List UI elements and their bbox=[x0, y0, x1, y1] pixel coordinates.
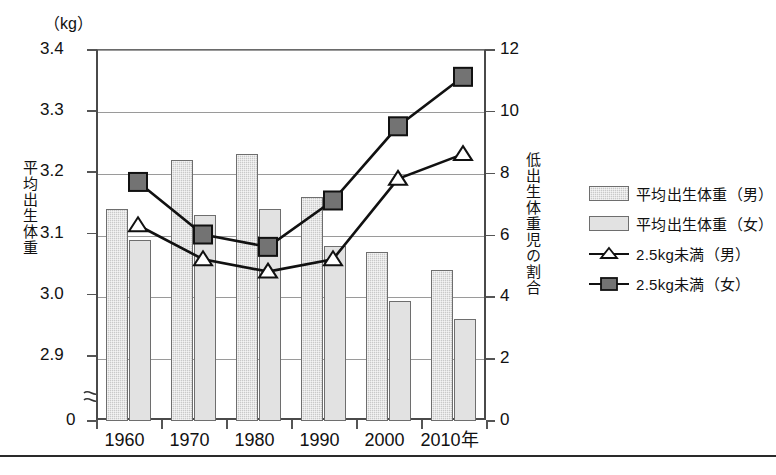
x-axis-tick-mark bbox=[486, 420, 488, 429]
legend-swatch-female-bar-icon bbox=[589, 216, 629, 231]
legend-label: 平均出生体重（女） bbox=[636, 213, 774, 234]
bar-male-avg-weight bbox=[171, 160, 193, 421]
x-axis-tick: 2010年 bbox=[421, 431, 479, 449]
legend: 平均出生体重（男）平均出生体重（女）2.5kg未満（男）2.5kg未満（女） bbox=[589, 178, 769, 298]
x-axis-tick: 1970 bbox=[170, 431, 210, 449]
left-axis-title: 平均出生体重 bbox=[22, 160, 38, 256]
bar-male-avg-weight bbox=[431, 270, 453, 421]
left-axis-tick-mark bbox=[87, 355, 96, 357]
right-axis-tick: 8 bbox=[500, 164, 509, 181]
left-axis-tick: 2.9 bbox=[40, 346, 64, 363]
x-axis-tick: 1980 bbox=[235, 431, 275, 449]
legend-item-2[interactable]: 2.5kg未満（男） bbox=[589, 238, 769, 268]
right-axis-tick-mark bbox=[486, 173, 495, 175]
bar-male-avg-weight bbox=[301, 197, 323, 421]
right-axis-tick: 0 bbox=[500, 411, 509, 428]
legend-label: 平均出生体重（男） bbox=[636, 183, 774, 204]
right-axis-tick-mark bbox=[486, 296, 495, 298]
legend-label: 2.5kg未満（男） bbox=[636, 243, 751, 264]
legend-label: 2.5kg未満（女） bbox=[636, 273, 751, 294]
bar-female-avg-weight bbox=[454, 319, 476, 421]
right-axis-tick: 10 bbox=[500, 102, 519, 119]
bar-female-avg-weight bbox=[324, 246, 346, 421]
gridline bbox=[98, 297, 484, 298]
bar-male-avg-weight bbox=[366, 252, 388, 421]
bar-female-avg-weight bbox=[389, 301, 411, 421]
right-axis-tick: 6 bbox=[500, 226, 509, 243]
legend-item-3[interactable]: 2.5kg未満（女） bbox=[589, 268, 769, 298]
left-axis-tick: 0 bbox=[66, 411, 75, 428]
x-axis-tick: 1990 bbox=[300, 431, 340, 449]
left-axis-tick-mark bbox=[87, 49, 96, 51]
bar-male-avg-weight bbox=[106, 209, 128, 421]
gridline bbox=[98, 174, 484, 175]
bar-male-avg-weight bbox=[236, 154, 258, 421]
birth-weight-chart: （kg） 平均出生体重 低出生体重児の割合 平均出生体重（男）平均出生体重（女）… bbox=[0, 0, 776, 475]
legend-swatch-female-line-icon bbox=[589, 276, 629, 291]
x-axis-tick-mark bbox=[356, 420, 358, 429]
left-axis-tick: 3.1 bbox=[40, 224, 64, 241]
gridline bbox=[98, 112, 484, 113]
gridline bbox=[98, 50, 484, 51]
bottom-rule bbox=[0, 455, 776, 457]
right-axis-tick: 4 bbox=[500, 287, 509, 304]
right-axis-tick-mark bbox=[486, 358, 495, 360]
left-axis-tick: 3.2 bbox=[40, 162, 64, 179]
left-axis-tick-mark bbox=[87, 420, 96, 422]
left-axis-tick: 3.0 bbox=[40, 285, 64, 302]
right-axis-tick-mark bbox=[486, 235, 495, 237]
x-axis-tick: 2000 bbox=[365, 431, 405, 449]
right-axis-tick-mark bbox=[486, 111, 495, 113]
left-axis-tick-mark bbox=[87, 294, 96, 296]
x-axis-tick-mark bbox=[96, 420, 98, 429]
x-axis-tick: 1960 bbox=[105, 431, 145, 449]
legend-item-1[interactable]: 平均出生体重（女） bbox=[589, 208, 769, 238]
legend-swatch-male-line-icon bbox=[589, 246, 629, 261]
plot-area bbox=[96, 49, 486, 420]
left-axis-tick-mark bbox=[87, 110, 96, 112]
bar-female-avg-weight bbox=[194, 215, 216, 421]
x-axis-tick-mark bbox=[291, 420, 293, 429]
gridline bbox=[98, 359, 484, 360]
left-axis-unit: （kg） bbox=[44, 16, 93, 32]
x-axis-tick-mark bbox=[226, 420, 228, 429]
left-axis-tick-mark bbox=[87, 233, 96, 235]
right-axis-title: 低出生体重児の割合 bbox=[525, 152, 541, 296]
right-axis-tick: 2 bbox=[500, 349, 509, 366]
left-axis-tick-mark bbox=[87, 171, 96, 173]
x-axis-tick-mark bbox=[421, 420, 423, 429]
left-axis-tick: 3.4 bbox=[40, 40, 64, 57]
right-axis-tick-mark bbox=[486, 49, 495, 51]
x-axis-tick-mark bbox=[161, 420, 163, 429]
bar-female-avg-weight bbox=[129, 240, 151, 421]
gridline bbox=[98, 236, 484, 237]
bar-female-avg-weight bbox=[259, 209, 281, 421]
right-axis-tick: 12 bbox=[500, 40, 519, 57]
legend-item-0[interactable]: 平均出生体重（男） bbox=[589, 178, 769, 208]
left-axis-tick: 3.3 bbox=[40, 101, 64, 118]
legend-swatch-male-bar-icon bbox=[589, 186, 629, 201]
